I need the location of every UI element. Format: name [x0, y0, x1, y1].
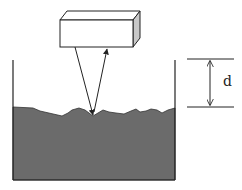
- sensor-top-face: [60, 11, 140, 20]
- incident-ray: [75, 47, 93, 115]
- liquid-body: [13, 107, 175, 180]
- sensor-front-face: [60, 20, 133, 47]
- sensor-box: [60, 11, 140, 47]
- level-sensor-diagram: d: [0, 0, 242, 190]
- reflected-ray: [94, 49, 107, 112]
- distance-dimension: d: [187, 59, 234, 107]
- distance-label: d: [223, 73, 232, 89]
